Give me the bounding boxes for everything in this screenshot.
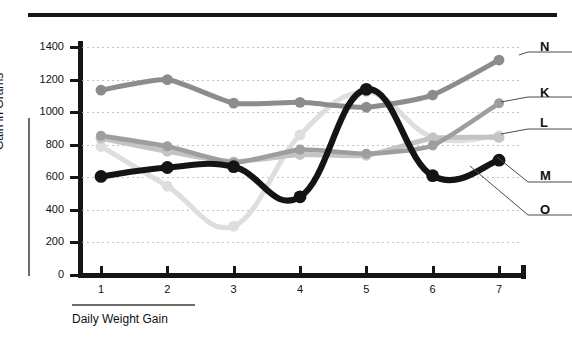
data-point — [161, 161, 174, 174]
data-point — [162, 141, 172, 151]
legend-label-m: M — [540, 168, 558, 183]
data-point — [428, 141, 438, 151]
data-point — [494, 98, 504, 108]
data-point — [95, 170, 108, 183]
data-point — [361, 149, 371, 159]
data-point — [361, 102, 372, 113]
data-point — [360, 83, 373, 96]
data-point — [96, 131, 106, 141]
data-point — [295, 130, 306, 141]
data-point — [162, 74, 173, 85]
series-n — [96, 55, 505, 113]
data-point — [426, 169, 439, 182]
x-axis-title: Daily Weight Gain — [72, 312, 168, 326]
legend-label-l: L — [540, 115, 558, 130]
data-point — [493, 154, 506, 167]
data-point — [295, 97, 306, 108]
legend-leader-line-k — [501, 97, 572, 102]
x-axis-title-rule — [72, 304, 195, 306]
data-point — [427, 90, 438, 101]
data-point — [162, 181, 173, 192]
legend-label-n: N — [540, 39, 558, 54]
data-point — [228, 98, 239, 109]
data-point — [96, 85, 107, 96]
chart-page: Gain in Grams 0200400600800100012001400 … — [0, 0, 572, 338]
legend-label-o: O — [540, 202, 558, 217]
series-layer — [0, 0, 572, 338]
legend-leader-line-l — [501, 129, 572, 134]
data-point — [294, 190, 307, 203]
legend-label-k: K — [540, 85, 558, 100]
data-point — [227, 160, 240, 173]
data-point — [228, 221, 239, 232]
data-point — [494, 55, 505, 66]
legend-leader-line-m — [497, 157, 572, 182]
data-point — [295, 145, 305, 155]
